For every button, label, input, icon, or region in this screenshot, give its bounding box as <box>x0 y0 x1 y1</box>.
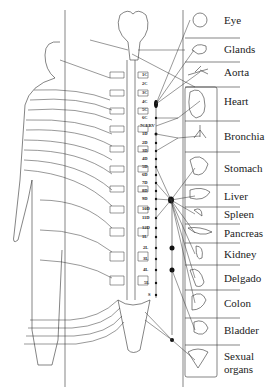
vertebra-label: 2L <box>143 245 148 250</box>
vertebra-label: 3L <box>143 256 148 261</box>
vertebra-label: 5C <box>142 107 148 112</box>
organ-label-stomach: Stomach <box>224 162 263 174</box>
vertebra-label: 1C <box>142 72 148 77</box>
vertebra-label: 8D <box>142 188 148 193</box>
organ-label-sexual: Sexual <box>224 350 254 362</box>
vertebra-label: 2D <box>142 140 148 145</box>
vertebra-label: 5L <box>144 280 149 285</box>
vertebra-label: 2C <box>142 81 148 86</box>
organ-label-aorta: Aorta <box>224 66 249 78</box>
organ-label-bronchia: Bronchia <box>224 130 264 142</box>
vertebra-label: 4L <box>143 267 148 272</box>
organ-label-kidney: Kidney <box>224 248 256 260</box>
vertebra-label: 4D <box>142 156 148 161</box>
organ-label-delgado: Delgado <box>224 272 261 284</box>
vertebra-label: 5D <box>142 164 148 169</box>
vertebra-label: 4C <box>142 99 148 104</box>
vertebra-label: 1L <box>142 234 147 239</box>
organ-label-pancreas: Pancreas <box>224 227 263 239</box>
organ-label-glands: Glands <box>224 43 255 55</box>
vertebra-label: 3D <box>142 148 148 153</box>
organ-label-spleen: Spleen <box>224 208 254 220</box>
vertebra-label: 11D <box>142 215 150 220</box>
organ-label-heart: Heart <box>224 95 248 107</box>
vertebra-label: 10D <box>142 206 150 211</box>
organ-label-organs: organs <box>224 363 253 375</box>
vertebra-label: 6D <box>142 172 148 177</box>
vertebra-label: 9D <box>142 196 148 201</box>
vertebra-label: 12D <box>142 225 150 230</box>
vertebra-label: 6C <box>142 115 148 120</box>
vertebra-label: S <box>148 292 151 297</box>
organ-label-colon: Colon <box>224 297 251 309</box>
vertebra-label: 3C <box>142 90 148 95</box>
organ-label-liver: Liver <box>224 190 248 202</box>
vertebra-label: 7CERV <box>140 123 155 128</box>
vertebra-label: 7D <box>142 180 148 185</box>
organ-label-eye: Eye <box>224 14 241 26</box>
vertebra-label: 1D <box>142 131 148 136</box>
organ-label-bladder: Bladder <box>224 324 259 336</box>
